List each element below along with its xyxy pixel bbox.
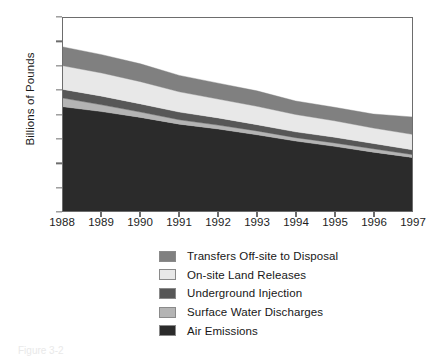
- stacked-area-series-group: [63, 18, 412, 211]
- plot-area: [62, 17, 413, 212]
- chart-legend: Transfers Off-site to DisposalOn-site La…: [159, 247, 338, 340]
- x-axis-tick-mark: [295, 212, 296, 217]
- x-axis-tick-mark: [334, 212, 335, 217]
- legend-label: Air Emissions: [187, 325, 258, 337]
- legend-label: Surface Water Discharges: [187, 306, 323, 318]
- legend-label: Transfers Off-site to Disposal: [187, 250, 338, 262]
- legend-swatch-icon: [159, 288, 176, 299]
- plot-clip: [63, 18, 412, 211]
- legend-item: Transfers Off-site to Disposal: [159, 247, 338, 266]
- legend-label: On-site Land Releases: [187, 269, 306, 281]
- x-axis-tick-mark: [178, 212, 179, 217]
- x-axis-tick-mark: [217, 212, 218, 217]
- x-axis-tick-mark: [373, 212, 374, 217]
- legend-label: Underground Injection: [187, 287, 302, 299]
- legend-item: On-site Land Releases: [159, 266, 338, 285]
- legend-item: Surface Water Discharges: [159, 303, 338, 322]
- x-axis-tick-mark: [256, 212, 257, 217]
- legend-item: Underground Injection: [159, 284, 338, 303]
- figure-caption: Figure 3-2: [18, 345, 64, 356]
- legend-item: Air Emissions: [159, 321, 338, 340]
- x-axis-tick-mark: [139, 212, 140, 217]
- y-axis-title: Billions of Pounds: [24, 0, 36, 199]
- figure-stacked-area-chart: Billions of Pounds 0.00.51.01.52.02.53.0…: [0, 0, 442, 360]
- x-axis-tick-label: 1997: [383, 216, 442, 228]
- legend-swatch-icon: [159, 307, 176, 318]
- legend-swatch-icon: [159, 251, 176, 262]
- legend-swatch-icon: [159, 325, 176, 336]
- x-axis-tick-mark: [100, 212, 101, 217]
- legend-swatch-icon: [159, 269, 176, 280]
